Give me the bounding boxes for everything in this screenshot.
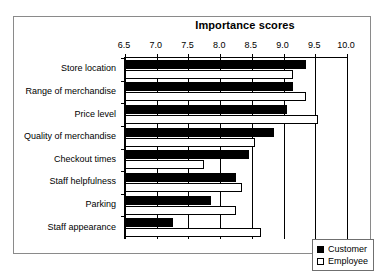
x-axis-tick-labels: 6.57.07.58.08.59.09.510.0 [124,40,348,53]
x-tick-label: 8.0 [213,40,226,50]
bar-customer [125,173,236,182]
bar-customer [125,128,274,137]
category-label: Checkout times [54,154,116,164]
x-tick-mark [347,54,348,58]
legend-label: Employee [328,256,368,266]
legend-label: Customer [328,244,367,254]
category-label: Staff appearance [48,222,116,232]
bar-customer [125,82,293,91]
x-tick-mark [252,54,253,58]
chart-figure: Importance scores 6.57.07.58.08.59.09.51… [0,0,386,277]
x-tick-mark [157,54,158,58]
y-tick-mark [121,171,125,172]
bar-customer [125,196,211,205]
category-label: Range of merchandise [25,86,116,96]
x-tick-label: 10.0 [337,40,355,50]
bar-customer [125,150,249,159]
x-tick-label: 7.5 [181,40,194,50]
plot-area [124,57,348,239]
bar-employee [125,183,242,192]
x-tick-mark [125,54,126,58]
category-label: Store location [61,63,116,73]
category-label: Quality of merchandise [24,131,116,141]
y-tick-mark [121,58,125,59]
y-tick-mark [121,216,125,217]
bar-employee [125,228,261,237]
legend-swatch-hollow [317,258,324,265]
y-tick-mark [121,126,125,127]
gridline [315,58,316,239]
bar-customer [125,105,287,114]
legend-entry: Employee [317,255,368,267]
x-tick-mark [284,54,285,58]
chart-title: Importance scores [120,19,370,31]
chart-legend: CustomerEmployee [312,239,374,271]
gridline [347,58,348,239]
bar-employee [125,115,318,124]
category-label: Staff helpfulness [50,176,116,186]
bar-customer [125,218,173,227]
bar-employee [125,138,255,147]
x-tick-mark [188,54,189,58]
x-tick-label: 7.0 [149,40,162,50]
bar-employee [125,70,293,79]
x-tick-label: 6.5 [118,40,131,50]
category-label: Parking [85,199,116,209]
bar-employee [125,92,306,101]
x-tick-label: 9.5 [308,40,321,50]
bar-employee [125,160,204,169]
legend-swatch-filled [317,246,324,253]
x-tick-mark [220,54,221,58]
y-tick-mark [121,194,125,195]
x-tick-label: 8.5 [245,40,258,50]
x-tick-label: 9.0 [276,40,289,50]
legend-entry: Customer [317,243,368,255]
category-label: Price level [74,109,116,119]
x-tick-mark [315,54,316,58]
bar-employee [125,206,236,215]
bar-customer [125,60,306,69]
y-axis-category-labels: Store locationRange of merchandisePrice … [0,57,120,239]
y-tick-mark [121,103,125,104]
